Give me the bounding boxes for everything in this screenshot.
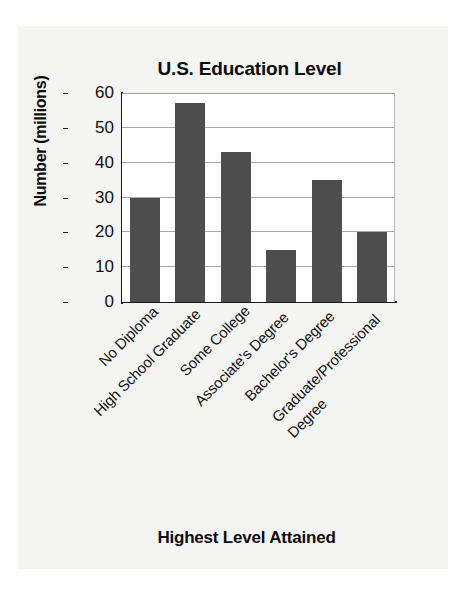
gridline — [122, 266, 395, 267]
bar — [221, 152, 251, 302]
y-axis-tick-mark — [63, 232, 68, 233]
page-edge-bottom — [0, 569, 465, 591]
y-axis-tick-mark — [63, 128, 68, 129]
y-axis-tick-label: 50 — [74, 118, 114, 138]
y-axis-tick-mark — [63, 302, 68, 303]
bar — [312, 180, 342, 302]
page-edge-left — [0, 0, 18, 591]
y-axis-title: Number (millions) — [32, 56, 50, 226]
y-axis-tick-mark — [63, 163, 68, 164]
bar — [357, 232, 387, 302]
y-axis-tick-label: 10 — [74, 257, 114, 277]
gridline — [122, 231, 395, 232]
y-axis-tick-mark — [63, 198, 68, 199]
y-axis-tick-label: 20 — [74, 222, 114, 242]
gridline — [122, 162, 395, 163]
bar — [175, 103, 205, 302]
x-axis-title: Highest Level Attained — [0, 528, 465, 548]
page-edge-top — [0, 0, 465, 26]
y-axis-tick-labels: 0102030405060 — [68, 93, 114, 302]
bar — [266, 250, 296, 302]
y-axis-tick-label: 30 — [74, 188, 114, 208]
y-axis-tick-mark — [63, 93, 68, 94]
bar — [130, 198, 160, 303]
page-edge-right — [448, 0, 465, 591]
chart-title: U.S. Education Level — [0, 58, 465, 80]
y-axis-tick-label: 0 — [74, 292, 114, 312]
y-axis-tick-label: 40 — [74, 153, 114, 173]
scanned-page: U.S. Education Level Number (millions) 0… — [0, 0, 465, 591]
gridline — [122, 127, 395, 128]
gridline — [122, 197, 395, 198]
y-axis-tick-mark — [63, 267, 68, 268]
plot-area — [122, 93, 395, 302]
y-axis-tick-label: 60 — [74, 83, 114, 103]
